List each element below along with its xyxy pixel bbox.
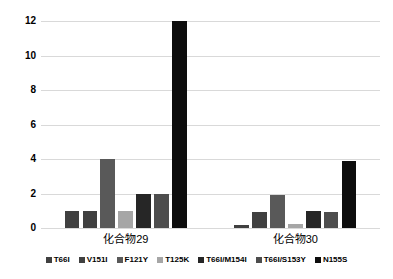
bar [270,195,285,228]
y-tick-label: 6 [2,120,36,130]
gridline [41,228,380,229]
legend-swatch-icon [198,257,204,263]
y-tick-label: 12 [2,16,36,26]
x-tick-label: 化合物29 [103,230,148,246]
y-tick-label: 4 [2,154,36,164]
legend-swatch-icon [117,257,123,263]
legend-swatch-icon [157,257,163,263]
bar [100,159,115,228]
bar [83,211,98,228]
legend-item[interactable]: T125K [157,255,189,264]
legend-label: T66I/M154I [206,255,246,264]
legend-item[interactable]: T66I [46,255,70,264]
y-axis: 024681012 [0,21,36,228]
legend-swatch-icon [46,257,52,263]
bar [154,194,169,229]
legend-label: T66I/S153Y [264,255,306,264]
bar [136,194,151,229]
legend-item[interactable]: V151I [79,255,108,264]
legend-item[interactable]: T66I/M154I [198,255,246,264]
legend: T66IV151IF121YT125KT66I/M154IT66I/S153YN… [0,255,393,264]
y-tick-label: 10 [2,51,36,61]
y-tick-label: 0 [2,223,36,233]
legend-label: T125K [165,255,189,264]
bar [306,211,321,228]
legend-swatch-icon [256,257,262,263]
legend-label: V151I [87,255,108,264]
bars-layer [41,21,380,228]
bar [342,161,357,228]
legend-label: F121Y [125,255,149,264]
x-axis: 化合物29化合物30 [41,230,380,248]
bar [172,21,187,228]
bar [234,225,249,228]
bar [252,212,267,228]
bar [324,212,339,228]
legend-swatch-icon [315,257,321,263]
y-tick-label: 2 [2,189,36,199]
legend-item[interactable]: T66I/S153Y [256,255,306,264]
legend-item[interactable]: N155S [315,255,347,264]
y-tick-label: 8 [2,85,36,95]
legend-label: T66I [54,255,70,264]
legend-swatch-icon [79,257,85,263]
bar [65,211,80,228]
bar [288,224,303,228]
legend-item[interactable]: F121Y [117,255,149,264]
bar-chart: 024681012 化合物29化合物30 T66IV151IF121YT125K… [0,0,393,279]
legend-label: N155S [323,255,347,264]
x-tick-label: 化合物30 [273,230,318,246]
bar [118,211,133,228]
